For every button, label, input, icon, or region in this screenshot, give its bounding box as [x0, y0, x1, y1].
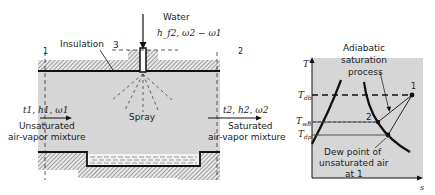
dew-label-1: Dew point of	[324, 147, 382, 157]
spray-label: Spray	[129, 112, 156, 122]
inlet-desc-2: air-vapor mixture	[8, 132, 86, 142]
y-axis-label: T	[303, 59, 310, 69]
dew-label-2: unsaturated air	[319, 158, 389, 168]
outlet-props: t2, h2, ω2	[223, 105, 269, 115]
process-label-3: process	[348, 67, 383, 77]
process-label-1: Adiabatic	[343, 43, 385, 53]
station-2-label: 2	[238, 47, 243, 56]
dew-point	[386, 133, 391, 138]
process-label-2: saturation	[341, 55, 387, 65]
outlet-desc-2: air-vapor mixture	[208, 132, 286, 142]
outlet-desc-1: Saturated	[228, 121, 272, 131]
insulation-label: Insulation	[60, 39, 104, 49]
water-sump	[88, 154, 199, 165]
tdp-label: Tdp	[298, 129, 312, 141]
dew-label-3: at 1	[345, 169, 363, 179]
point-2-label: 2	[366, 112, 372, 122]
station-3-label: 3	[113, 40, 119, 50]
twb-label: Twb	[296, 116, 311, 127]
spray-nozzle	[140, 48, 146, 72]
point-1-label: 1	[411, 82, 416, 91]
water-label: Water	[163, 12, 190, 22]
state-point-2	[376, 120, 380, 124]
adiabatic-saturation-figure: Water h_f2, ω2 − ω1 Insulation 3 1 2 Spr…	[0, 0, 435, 195]
tdb-label: Tdb	[298, 90, 312, 101]
water-props: h_f2, ω2 − ω1	[157, 28, 221, 39]
station-1-label: 1	[43, 47, 48, 56]
inlet-props: t1, h1, ω1	[23, 105, 68, 115]
state-point-1	[410, 93, 415, 98]
x-axis-label: s	[420, 183, 424, 192]
inlet-desc-1: Unsaturated	[19, 121, 75, 131]
